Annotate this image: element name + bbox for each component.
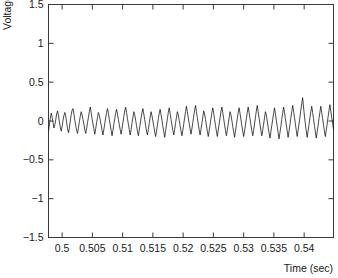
x-tick-label: 0.515 — [140, 242, 166, 254]
y-axis-tick-labels: −1.5−1−0.500.511.5 — [23, 0, 44, 243]
y-axis-title: Voltage — [1, 0, 13, 30]
x-axis-tick-labels: 0.50.5050.510.5150.520.5250.530.5350.54 — [55, 242, 315, 254]
y-tick-label: 0.5 — [29, 76, 44, 88]
x-axis-title: Time (sec) — [284, 262, 333, 274]
voltage-waveform-line — [49, 98, 334, 139]
x-tick-label: 0.54 — [294, 242, 315, 254]
y-tick-label: 0 — [38, 115, 44, 127]
x-tick-label: 0.505 — [79, 242, 105, 254]
voltage-time-plot: −1.5−1−0.500.511.5 0.50.5050.510.5150.52… — [0, 0, 338, 278]
y-tick-label: −1.5 — [23, 231, 44, 243]
y-tick-label: −1 — [32, 192, 44, 204]
x-axis-tick-marks — [62, 5, 304, 238]
x-tick-label: 0.53 — [233, 242, 254, 254]
x-tick-label: 0.5 — [55, 242, 70, 254]
y-tick-label: 1.5 — [29, 0, 44, 10]
x-tick-label: 0.51 — [112, 242, 133, 254]
y-tick-label: 1 — [38, 37, 44, 49]
y-tick-label: −0.5 — [23, 153, 44, 165]
chart-figure: −1.5−1−0.500.511.5 0.50.5050.510.5150.52… — [0, 0, 338, 278]
x-tick-label: 0.525 — [200, 242, 226, 254]
x-tick-label: 0.535 — [261, 242, 287, 254]
x-tick-label: 0.52 — [173, 242, 194, 254]
